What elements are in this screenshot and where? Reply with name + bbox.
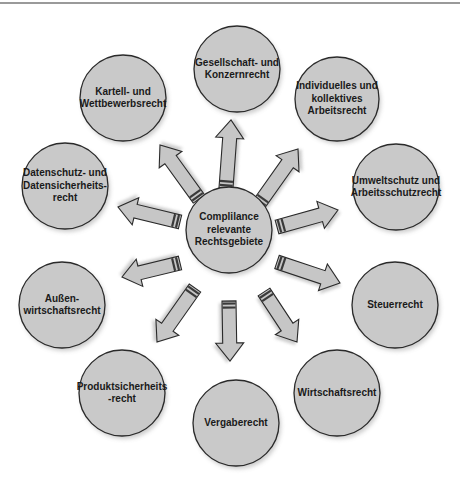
center-label: Complilance relevante Rechtsgebiete [184, 187, 274, 273]
node-label-kartellrecht: Kartell- und Wettbewerbsrecht [78, 55, 168, 141]
node-label-wirtschaftsrecht: Wirtschaftsrecht [292, 350, 382, 436]
arrow-to-vergaberecht [212, 301, 244, 364]
arrow-to-produktsicherheit [142, 278, 207, 351]
arrow-to-wirtschaftsrecht [250, 284, 310, 353]
node-label-arbeitsrecht: Individuelles und kollektives Arbeitsrec… [293, 57, 381, 141]
arrow-to-gesellschaft [212, 117, 248, 189]
node-label-umweltschutz: Umweltschutz und Arbeitsschutzrecht [351, 144, 441, 230]
node-label-vergaberecht: Vergaberecht [191, 380, 281, 466]
node-label-aussenwirtschaft: Außen- wirtschaftsrecht [17, 262, 107, 348]
arrow-to-datenschutz [113, 190, 184, 236]
node-label-steuerrecht: Steuerrecht [350, 262, 440, 348]
arrow-to-steuerrecht [272, 249, 347, 300]
arrow-to-aussenwirtschaft [116, 246, 183, 291]
node-label-produktsicherheit: Produktsicherheits -recht [77, 350, 167, 436]
arrow-to-umweltschutz [273, 196, 344, 243]
node-label-gesellschaft: Gesellschaft- und Konzernrecht [192, 26, 282, 112]
node-label-datenschutz: Datenschutz- und Datensicherheits- recht [20, 143, 110, 229]
